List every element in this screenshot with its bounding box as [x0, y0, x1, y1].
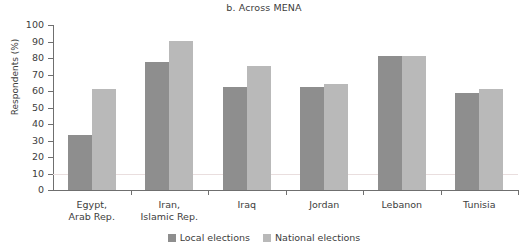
bar-national [402, 56, 426, 190]
bar-national [169, 41, 193, 190]
x-label-line: Iran, [131, 199, 209, 211]
x-label-line: Iraq [208, 199, 286, 211]
y-tick-label: 10 [0, 169, 44, 179]
chart-legend: Local electionsNational elections [0, 232, 528, 243]
bar-local [68, 135, 92, 190]
x-tick-mark [441, 190, 442, 195]
legend-label: National elections [275, 232, 360, 243]
x-category-label: Jordan [286, 199, 364, 211]
bar-local [300, 87, 324, 190]
y-tick-label: 80 [0, 53, 44, 63]
x-tick-mark [131, 190, 132, 195]
legend-swatch-icon [168, 234, 176, 242]
gridline [53, 174, 518, 175]
x-label-line: Tunisia [441, 199, 519, 211]
bar-local [223, 87, 247, 190]
x-tick-mark [208, 190, 209, 195]
bar-national [324, 84, 348, 190]
x-category-label: Tunisia [441, 199, 519, 211]
y-tick-label: 100 [0, 20, 44, 30]
bar-local [145, 62, 169, 190]
y-tick-mark [48, 190, 53, 191]
bar-chart: b. Across MENA Respondents (%) 100908070… [0, 0, 528, 248]
x-label-line: Islamic Rep. [131, 211, 209, 223]
plot-area [53, 25, 518, 190]
x-category-label: Iraq [208, 199, 286, 211]
y-tick-label: 20 [0, 152, 44, 162]
x-tick-mark [518, 190, 519, 195]
y-tick-label: 30 [0, 136, 44, 146]
x-label-line: Egypt, [53, 199, 131, 211]
bar-national [247, 66, 271, 190]
legend-item[interactable]: Local elections [168, 232, 250, 243]
y-tick-label: 40 [0, 119, 44, 129]
legend-label: Local elections [180, 232, 250, 243]
x-category-label: Lebanon [363, 199, 441, 211]
x-label-line: Jordan [286, 199, 364, 211]
x-label-line: Arab Rep. [53, 211, 131, 223]
y-tick-label: 70 [0, 70, 44, 80]
legend-item[interactable]: National elections [263, 232, 360, 243]
x-tick-mark [286, 190, 287, 195]
y-tick-label: 60 [0, 86, 44, 96]
x-category-label: Egypt,Arab Rep. [53, 199, 131, 222]
x-tick-mark [363, 190, 364, 195]
bar-local [378, 56, 402, 190]
y-tick-label: 50 [0, 103, 44, 113]
y-tick-label: 90 [0, 37, 44, 47]
bar-national [92, 89, 116, 190]
bar-local [455, 93, 479, 190]
chart-title: b. Across MENA [0, 2, 528, 13]
x-label-line: Lebanon [363, 199, 441, 211]
legend-swatch-icon [263, 234, 271, 242]
bar-national [479, 89, 503, 190]
y-tick-label: 0 [0, 185, 44, 195]
x-category-label: Iran,Islamic Rep. [131, 199, 209, 222]
